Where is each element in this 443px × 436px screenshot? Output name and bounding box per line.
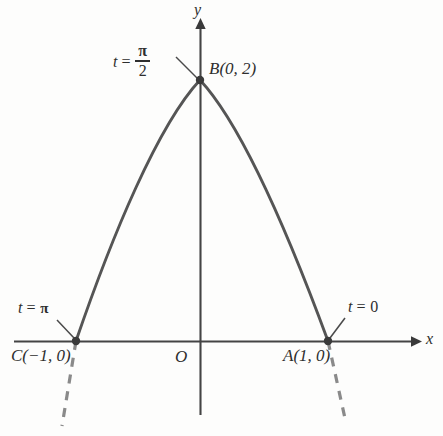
t-variable-vertex: t <box>113 54 117 70</box>
point-marker-a <box>324 337 332 345</box>
fraction-pi-over-2: π 2 <box>135 43 150 79</box>
pi-symbol-left: π <box>40 301 48 316</box>
annotation-t-zero: t = 0 <box>348 299 378 315</box>
point-marker-c <box>72 337 80 345</box>
point-marker-b <box>196 76 204 84</box>
origin-label: O <box>175 348 187 365</box>
t-variable-right: t <box>348 299 352 315</box>
parabola-curve <box>76 80 328 341</box>
equals-sign-vertex: = <box>120 54 131 70</box>
fraction-numerator: π <box>136 43 149 60</box>
parametric-curve-figure: y x t = π 2 B(0, 2) t = π C(−1, 0) O t =… <box>0 0 443 436</box>
annotation-t-pi: t = π <box>18 300 48 316</box>
equals-sign-right: = <box>355 299 366 315</box>
x-axis-arrowhead <box>411 336 422 346</box>
equals-sign-left: = <box>25 300 36 316</box>
leader-line-t-zero <box>330 318 345 338</box>
leader-line-t-pi-over-2 <box>176 57 197 78</box>
zero-value-right: 0 <box>370 299 378 315</box>
y-axis-label: y <box>194 2 201 18</box>
annotation-t-pi-over-2: t = π 2 <box>113 44 150 80</box>
t-variable-left: t <box>18 300 22 316</box>
point-label-a: A(1, 0) <box>283 347 330 364</box>
leader-line-t-pi <box>57 320 74 338</box>
dashed-extension-right <box>328 341 346 423</box>
point-label-c: C(−1, 0) <box>11 347 71 364</box>
fraction-denominator: 2 <box>137 62 149 79</box>
point-label-b: B(0, 2) <box>209 60 256 77</box>
x-axis-label: x <box>426 331 433 347</box>
y-axis-arrowhead <box>195 18 205 29</box>
